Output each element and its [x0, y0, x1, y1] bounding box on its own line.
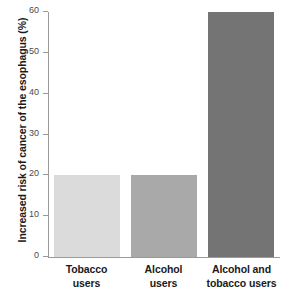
- y-axis-tick-label: 30: [29, 128, 39, 139]
- x-axis-category-label-line: Alcohol: [125, 262, 202, 276]
- x-axis-category-label-line: users: [125, 276, 202, 290]
- y-axis-tick-label: 60: [29, 5, 39, 16]
- x-axis-category-label-line: users: [48, 276, 125, 290]
- x-axis-line: [48, 257, 280, 258]
- y-axis-tick: 40: [43, 93, 48, 94]
- bar: [208, 12, 274, 257]
- y-axis-tick-label: 20: [29, 168, 39, 179]
- y-axis-tick-label: 40: [29, 87, 39, 98]
- plot-area: 0102030405060: [48, 12, 280, 258]
- bar-chart: Increased risk of cancer of the esophagu…: [0, 0, 284, 296]
- bar: [54, 175, 120, 257]
- x-axis-category-label: Alcohol andtobacco users: [203, 262, 280, 290]
- y-axis-tick: 0: [43, 256, 48, 257]
- y-axis-tick: 30: [43, 134, 48, 135]
- y-axis-tick: 50: [43, 52, 48, 53]
- y-axis-tick-label: 10: [29, 209, 39, 220]
- y-axis-title: Increased risk of cancer of the esophagu…: [16, 4, 28, 256]
- y-axis-tick: 10: [43, 215, 48, 216]
- y-axis-tick: 60: [43, 11, 48, 12]
- x-axis-category-label-line: tobacco users: [203, 276, 280, 290]
- x-axis-labels: TobaccousersAlcoholusersAlcohol andtobac…: [48, 262, 280, 296]
- x-axis-category-label: Alcoholusers: [125, 262, 202, 290]
- y-axis-tick: 20: [43, 174, 48, 175]
- x-axis-category-label-line: Tobacco: [48, 262, 125, 276]
- y-axis-line: [48, 12, 49, 258]
- y-axis-tick-label: 50: [29, 46, 39, 57]
- x-axis-category-label: Tobaccousers: [48, 262, 125, 290]
- y-axis-tick-label: 0: [34, 250, 39, 261]
- bar: [131, 175, 197, 257]
- x-axis-category-label-line: Alcohol and: [203, 262, 280, 276]
